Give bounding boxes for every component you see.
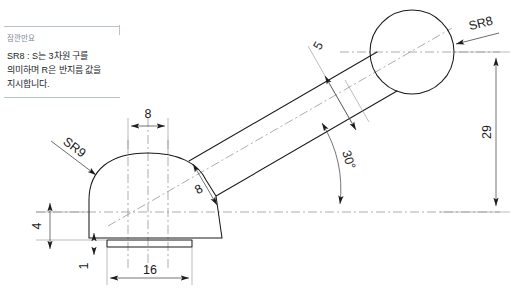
dimension-label-dome-width-top: 8 — [145, 107, 152, 121]
dimension-total-height: 29 — [440, 52, 510, 212]
note-header: 잠깐만요 — [4, 32, 120, 43]
technical-drawing-canvas: 8 16 4 1 29 — [0, 0, 526, 308]
label-dome-radius: SR9 — [60, 135, 88, 161]
shaft-outline — [189, 52, 397, 196]
dimension-label-shaft-width: 8 — [192, 182, 205, 198]
note-box: 잠깐만요 SR8 : S는 3차원 구를 의미하며 R은 반지름 값을 지시합니… — [4, 26, 120, 98]
dimension-label-shaft-offset: 5 — [311, 39, 327, 52]
dimension-label-total-height: 29 — [480, 125, 494, 139]
dimension-shaft-width: 8 — [192, 164, 217, 205]
dimension-label-dome-height: 4 — [30, 222, 44, 229]
note-corner-mark — [112, 25, 120, 35]
dimension-angle: 30° — [322, 123, 358, 204]
note-divider-bottom — [4, 97, 120, 98]
dimension-label-base-width: 16 — [143, 263, 157, 277]
dimension-label-angle: 30° — [339, 149, 358, 171]
label-sphere-radius: SR8 — [467, 14, 494, 33]
note-body-text: SR8 : S는 3차원 구를 의미하며 R은 반지름 값을 지시합니다. — [4, 49, 119, 91]
base-plate-outline — [107, 240, 192, 247]
dimension-dome-height: 4 — [30, 203, 106, 249]
note-divider-top — [4, 26, 120, 27]
dimension-base-width: 16 — [107, 248, 192, 285]
dimension-dome-width-top: 8 — [128, 107, 168, 152]
dimension-shaft-offset: 5 — [308, 39, 369, 130]
leader-dome-radius: SR9 — [51, 135, 96, 175]
dimension-label-base-thickness: 1 — [77, 262, 91, 269]
leader-sphere-radius: SR8 — [456, 14, 499, 44]
center-line-shaft-axis — [108, 28, 452, 226]
